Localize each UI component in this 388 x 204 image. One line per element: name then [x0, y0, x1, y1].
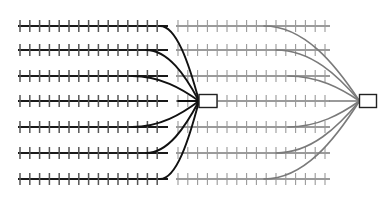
rail-network-diagram [0, 0, 388, 204]
diagram-background [0, 0, 388, 204]
rail-diagram-canvas [0, 0, 388, 204]
right-node [360, 95, 377, 108]
center-node [199, 95, 217, 108]
